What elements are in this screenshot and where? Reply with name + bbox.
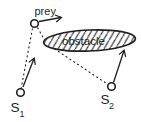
s2-subscript: 2 xyxy=(109,101,114,111)
diagram-canvas: obstacle prey S 1 S 2 xyxy=(0,0,141,122)
s2-node xyxy=(108,83,116,91)
s1-label: S xyxy=(11,100,20,115)
sight-line-s1-prey xyxy=(21,29,33,90)
obstacle-label: obstacle xyxy=(62,35,105,47)
prey-velocity-arrow xyxy=(39,18,61,22)
pursuit-diagram: obstacle prey S 1 S 2 xyxy=(0,0,141,122)
s2-velocity-arrow xyxy=(114,51,125,83)
s1-subscript: 1 xyxy=(20,109,25,119)
s1-node xyxy=(17,89,25,97)
prey-node xyxy=(31,20,39,28)
prey-label: prey xyxy=(35,5,57,17)
s1-velocity-arrow xyxy=(23,59,34,88)
